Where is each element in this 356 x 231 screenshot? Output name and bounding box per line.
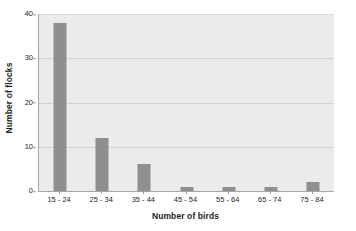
y-tick-label: 0 (15, 187, 33, 195)
bar (138, 164, 151, 191)
x-tick-label: 15 - 24 (47, 195, 70, 204)
x-tick-label: 25 - 34 (90, 195, 113, 204)
x-tick-mark (59, 191, 60, 194)
y-tick-mark (33, 191, 36, 192)
x-tick-label: 65 - 74 (258, 195, 281, 204)
y-axis-tick-labels: 010203040 (18, 14, 36, 191)
y-tick-mark (33, 147, 36, 148)
y-tick-mark (33, 58, 36, 59)
x-tick-label: 55 - 64 (216, 195, 239, 204)
histogram-chart: Number of flocks 010203040 15 - 2425 - 3… (0, 0, 356, 231)
y-tick-mark (33, 14, 36, 15)
x-axis-tick-labels: 15 - 2425 - 3435 - 4445 - 5455 - 6465 - … (38, 195, 333, 207)
bars-layer (39, 14, 334, 191)
x-tick-mark (143, 191, 144, 194)
x-tick-mark (101, 191, 102, 194)
plot-area (38, 14, 334, 192)
y-tick-label: 40 (15, 10, 33, 18)
bar (54, 23, 67, 191)
y-tick-label: 10 (15, 143, 33, 151)
x-tick-mark (270, 191, 271, 194)
x-axis-title: Number of birds (38, 211, 333, 221)
x-tick-mark (186, 191, 187, 194)
y-tick-mark (33, 103, 36, 104)
bar (306, 182, 319, 191)
x-tick-label: 75 - 84 (300, 195, 323, 204)
x-tick-mark (228, 191, 229, 194)
x-tick-label: 35 - 44 (132, 195, 155, 204)
y-tick-label: 30 (15, 55, 33, 63)
y-tick-label: 20 (15, 99, 33, 107)
y-axis-title-text: Number of flocks (4, 62, 14, 133)
x-tick-mark (312, 191, 313, 194)
x-tick-label: 45 - 54 (174, 195, 197, 204)
bar (96, 138, 109, 191)
